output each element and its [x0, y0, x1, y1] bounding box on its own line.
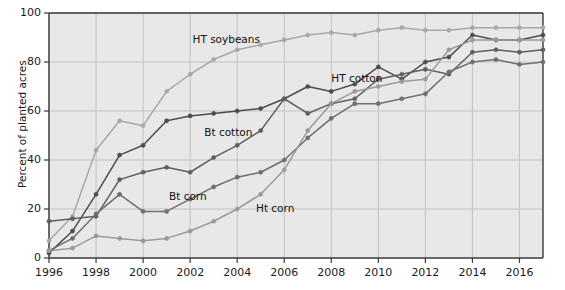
x-tick-label: 1998	[80, 266, 112, 279]
line-chart-plot	[0, 0, 565, 290]
y-tick-label: 20	[5, 202, 41, 215]
x-tick-label: 2004	[221, 266, 253, 279]
y-tick-label: 80	[5, 55, 41, 68]
y-tick-label: 40	[5, 153, 41, 166]
series-label-bt-cotton: Bt cotton	[204, 126, 252, 138]
x-tick-label: 2000	[127, 266, 159, 279]
x-tick-label: 2008	[315, 266, 347, 279]
y-tick-label: 60	[5, 104, 41, 117]
x-tick-label: 2012	[409, 266, 441, 279]
plot-background	[49, 13, 543, 258]
x-tick-label: 2010	[362, 266, 394, 279]
series-label-bt-corn: Bt corn	[169, 190, 207, 202]
y-tick-label: 0	[5, 251, 41, 264]
y-axis-title: Percent of planted acres	[16, 60, 28, 188]
plot-background-group	[49, 13, 543, 258]
series-label-ht-cotton: HT cotton	[331, 72, 382, 84]
x-tick-label: 2002	[174, 266, 206, 279]
series-label-ht-soybeans: HT soybeans	[192, 33, 259, 45]
x-tick-label: 2014	[456, 266, 488, 279]
y-tick-label: 100	[5, 6, 41, 19]
x-tick-label: 2016	[503, 266, 535, 279]
chart-container: Percent of planted acres 199619982000200…	[0, 0, 565, 290]
series-label-ht-corn: Ht corn	[256, 202, 294, 214]
x-tick-label: 1996	[33, 266, 65, 279]
x-tick-label: 2006	[268, 266, 300, 279]
